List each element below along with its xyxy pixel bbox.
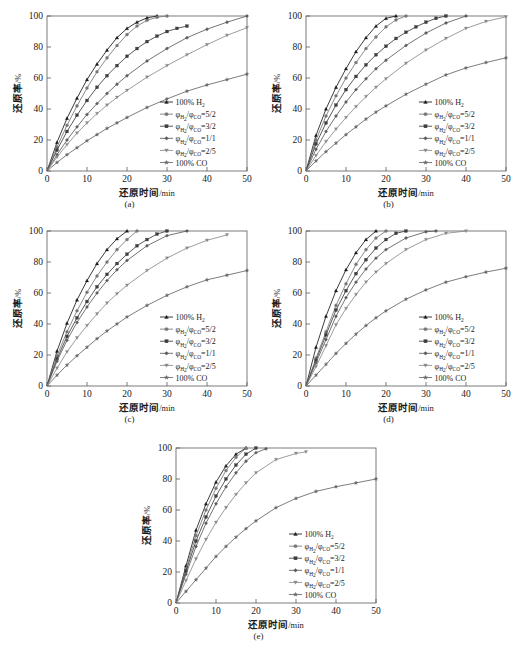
x-tick-label: 50	[501, 174, 511, 184]
data-point	[204, 538, 207, 541]
x-tick-label: 50	[371, 606, 381, 616]
y-tick-label: 0	[167, 598, 172, 608]
data-point	[334, 315, 337, 318]
legend: 100% H2φH2/φCO=5/2φH2/φCO=3/2φH2/φCO=1/1…	[419, 313, 475, 383]
x-tick-label: 20	[122, 174, 132, 184]
data-point	[245, 14, 248, 17]
data-point	[126, 253, 129, 256]
data-point	[324, 114, 327, 117]
data-point	[185, 285, 189, 289]
data-point	[165, 97, 169, 101]
y-tick-label: 60	[293, 288, 303, 298]
y-tick-label: 20	[34, 350, 44, 360]
data-point	[435, 17, 438, 20]
x-tick-label: 0	[45, 174, 50, 184]
chart-panel-c: 01020304050020406080100还原时间/min还原率/%100%…	[0, 215, 259, 432]
data-point	[165, 14, 168, 17]
data-point	[205, 83, 209, 87]
data-point	[66, 335, 69, 338]
y-tick-label: 0	[297, 381, 302, 391]
data-point	[136, 244, 139, 247]
y-tick-label: 100	[29, 226, 44, 236]
data-point	[434, 229, 437, 232]
data-point	[106, 74, 109, 77]
data-point	[156, 35, 159, 38]
series-2	[176, 447, 257, 603]
data-point	[126, 55, 129, 58]
data-point	[166, 230, 169, 233]
data-point	[424, 230, 427, 233]
x-tick-label: 0	[304, 174, 309, 184]
x-tick-label: 10	[82, 174, 92, 184]
data-point	[205, 516, 208, 519]
data-point	[235, 464, 238, 467]
data-point	[85, 291, 88, 294]
data-point	[55, 141, 58, 144]
data-point	[96, 86, 99, 89]
data-point	[76, 114, 79, 117]
data-point	[76, 316, 79, 319]
data-point	[225, 21, 228, 24]
data-point	[194, 528, 197, 531]
series-line	[306, 16, 396, 171]
data-point	[445, 15, 448, 18]
data-point	[364, 248, 367, 251]
legend-label: φH2/φCO=3/2	[435, 337, 475, 349]
data-point	[234, 456, 237, 459]
series-3	[176, 447, 268, 603]
x-tick-label: 20	[381, 389, 391, 399]
legend: 100% H2φH2/φCO=5/2φH2/φCO=3/2φH2/φCO=1/1…	[160, 98, 216, 168]
x-axis-title: 还原时间/min	[118, 187, 175, 198]
panel-caption: (d)	[259, 414, 518, 424]
y-tick-label: 20	[163, 567, 173, 577]
data-point	[225, 273, 229, 277]
plot-svg-c: 01020304050020406080100还原时间/min还原率/%100%…	[0, 215, 259, 432]
data-point	[384, 25, 387, 28]
legend-label: φH2/φCO=1/1	[176, 349, 216, 361]
series-line	[306, 231, 406, 386]
data-point	[165, 234, 168, 237]
legend-label: φH2/φCO=1/1	[176, 134, 216, 146]
data-point	[345, 88, 348, 91]
series-line	[47, 231, 187, 386]
data-point	[264, 447, 267, 450]
data-point	[335, 104, 338, 107]
x-tick-label: 30	[421, 174, 431, 184]
data-point	[204, 508, 207, 511]
data-point	[225, 78, 229, 82]
legend-marker-icon	[165, 136, 169, 140]
y-tick-label: 100	[288, 11, 303, 21]
legend-label: 100% CO	[435, 159, 467, 168]
series-5	[306, 56, 508, 171]
data-point	[395, 232, 398, 235]
y-tick-label: 100	[29, 11, 44, 21]
data-point	[314, 365, 317, 368]
data-point	[365, 258, 368, 261]
legend-label: φH2/φCO=5/2	[176, 325, 216, 337]
data-point	[334, 323, 337, 326]
data-point	[65, 330, 68, 333]
data-point	[146, 238, 149, 241]
data-point	[334, 289, 337, 292]
legend-marker-icon	[424, 327, 427, 330]
data-point	[375, 53, 378, 56]
data-point	[204, 502, 207, 505]
legend-label: 100% H2	[435, 98, 464, 108]
x-tick-label: 40	[461, 174, 471, 184]
y-tick-label: 60	[34, 73, 44, 83]
legend-label: φH2/φCO=5/2	[435, 110, 475, 122]
legend-label: φH2/φCO=2/5	[176, 147, 216, 159]
data-point	[464, 275, 468, 279]
y-tick-label: 80	[293, 42, 303, 52]
panel-caption: (c)	[0, 414, 259, 424]
data-point	[385, 238, 388, 241]
legend-marker-icon	[165, 327, 168, 330]
data-point	[444, 280, 448, 284]
y-tick-label: 20	[293, 135, 303, 145]
data-point	[135, 229, 138, 232]
legend-marker-icon	[165, 351, 169, 355]
series-line	[176, 448, 256, 603]
legend-label: 100% H2	[176, 313, 205, 323]
panel-caption: (a)	[0, 199, 259, 209]
y-tick-label: 40	[293, 104, 303, 114]
